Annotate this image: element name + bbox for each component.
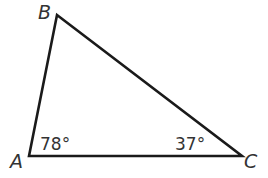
vertex-label-a: A xyxy=(8,150,23,172)
triangle-diagram: B A C 78° 37° xyxy=(0,0,268,178)
angle-label-a: 78° xyxy=(40,134,70,154)
angle-label-c: 37° xyxy=(175,134,205,154)
vertex-label-b: B xyxy=(38,1,51,23)
vertex-label-c: C xyxy=(244,150,258,172)
triangle-svg: B A C 78° 37° xyxy=(0,0,268,178)
